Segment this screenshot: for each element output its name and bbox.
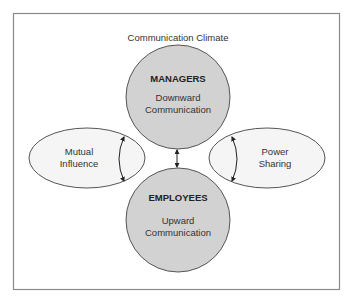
diagram-title: Communication Climate	[128, 32, 229, 43]
mutual-influence-node: Mutual Influence	[29, 128, 145, 188]
communication-climate-diagram: Communication Climate Mutual Influence P…	[0, 0, 350, 301]
employees-node: EMPLOYEES Upward Communication	[126, 168, 230, 272]
managers-line2: Communication	[145, 104, 211, 115]
mutual-influence-line1: Mutual	[65, 146, 94, 157]
managers-heading: MANAGERS	[150, 73, 205, 84]
power-sharing-line2: Sharing	[259, 158, 292, 169]
power-sharing-line1: Power	[262, 146, 289, 157]
employees-line2: Communication	[145, 227, 211, 238]
employees-heading: EMPLOYEES	[148, 192, 207, 203]
managers-line1: Downward	[156, 92, 201, 103]
mutual-influence-line2: Influence	[60, 158, 99, 169]
employees-line1: Upward	[162, 215, 195, 226]
managers-node: MANAGERS Downward Communication	[126, 45, 230, 149]
power-sharing-node: Power Sharing	[209, 128, 325, 188]
